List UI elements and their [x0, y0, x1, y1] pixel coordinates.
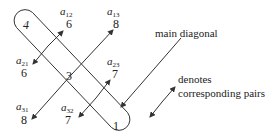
entry-value-a13: 8 [113, 18, 119, 30]
pair-arrow-a23-a32 [96, 80, 110, 98]
main-diagonal-label: main diagonal [155, 27, 218, 40]
diagonal-value-a33: 1 [113, 120, 119, 132]
entry-value-a31: 8 [21, 114, 27, 126]
symmetric-matrix-diagram: 4 3 1 a12 6 a13 8 a21 6 a23 7 a31 8 a32 … [0, 0, 276, 139]
entry-value-a21: 6 [21, 67, 27, 79]
legend-label-line1: denotes [178, 73, 212, 86]
entry-value-a23: 7 [112, 68, 118, 80]
diagonal-value-a11: 4 [23, 19, 29, 31]
main-diagonal-pointer [121, 38, 181, 107]
entry-value-a32: 7 [65, 114, 71, 126]
legend-label-line2: corresponding pairs [178, 87, 265, 100]
pair-arrow-a12-a21 [48, 31, 63, 46]
legend-double-arrow [162, 87, 175, 102]
diagonal-value-a22: 3 [66, 70, 72, 82]
diagram-lines [0, 0, 276, 139]
entry-value-a12: 6 [66, 18, 72, 30]
